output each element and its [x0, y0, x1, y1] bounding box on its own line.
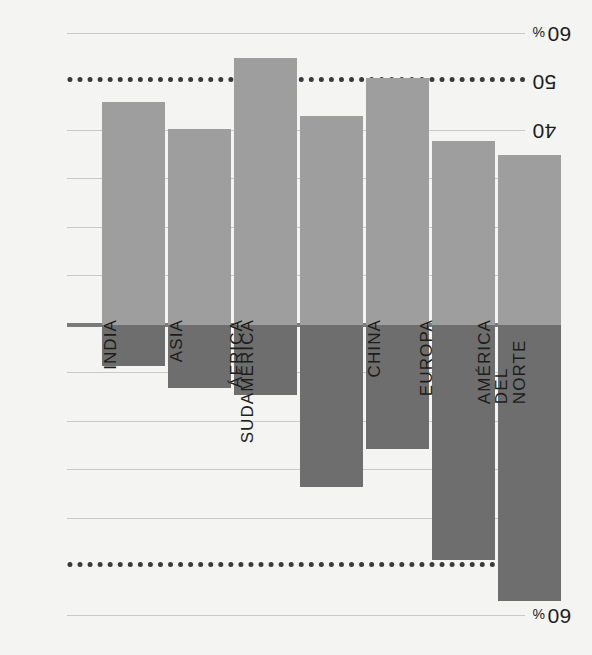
category-label-1: AMÉRICA DEL NORTE — [498, 119, 561, 319]
chart-canvas-rotated: 60%50403020100102030405060% AMÉRICA DEL … — [0, 0, 592, 655]
category-label-5: ÁFRICA — [234, 119, 297, 319]
bar-positive[interactable] — [300, 325, 363, 487]
category-label-4: SUDAMÉRICA — [300, 119, 363, 319]
category-label-2: EUROPA — [432, 119, 495, 319]
category-label-6: ASIA — [168, 119, 231, 319]
bar-column[interactable] — [300, 0, 363, 655]
category-label-7: INDIA — [102, 119, 165, 319]
category-label-text: INDIA — [102, 319, 119, 370]
category-label-text: ASIA — [168, 319, 185, 362]
category-label-text: EUROPA — [418, 319, 435, 396]
category-label-3: CHINA — [366, 119, 429, 319]
category-label-text: AMÉRICA DEL NORTE — [476, 319, 528, 404]
category-label-text: ÁFRICA — [228, 319, 245, 388]
chart-plot-area: 60%50403020100102030405060% AMÉRICA DEL … — [0, 0, 592, 655]
category-label-text: CHINA — [366, 319, 383, 377]
